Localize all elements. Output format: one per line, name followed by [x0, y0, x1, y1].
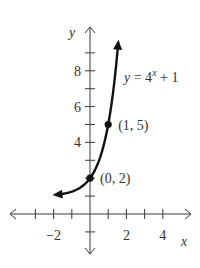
x-tick-label: 4 [159, 228, 166, 243]
exponential-graph: −224468 (0, 2)(1, 5) x y y = 4x + 1 [0, 0, 200, 268]
labeled-points: (0, 2)(1, 5) [86, 118, 148, 188]
equation-label: y = 4x + 1 [122, 67, 178, 85]
point-label: (0, 2) [100, 171, 131, 187]
cropped-text-fragment [0, 0, 200, 6]
axes [10, 27, 191, 254]
eq-lhs-rest: = 4 [130, 70, 152, 85]
curve-left-arrow-icon [52, 190, 62, 199]
y-tick-label: 8 [74, 64, 81, 79]
point-marker [105, 121, 112, 128]
x-tick-label: 2 [123, 228, 130, 243]
curve-up-arrow-icon [113, 40, 122, 50]
point-label: (1, 5) [118, 118, 149, 134]
x-axis-label: x [180, 234, 188, 249]
y-tick-label: 6 [74, 100, 81, 115]
tick-labels: −224468 [46, 64, 166, 243]
x-tick-label: −2 [46, 228, 61, 243]
eq-rhs: + 1 [157, 70, 179, 85]
point-marker [86, 175, 93, 182]
y-axis-label: y [67, 25, 76, 40]
y-tick-label: 4 [74, 135, 81, 150]
